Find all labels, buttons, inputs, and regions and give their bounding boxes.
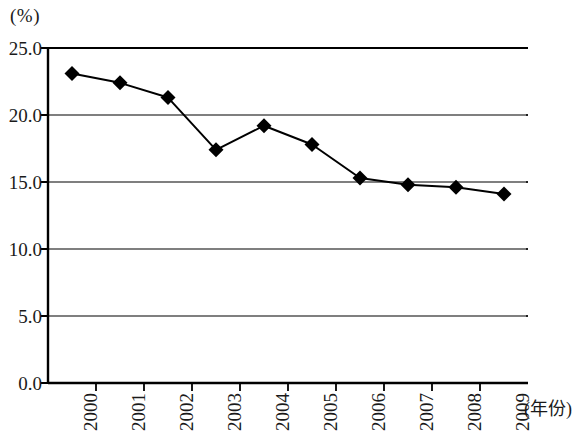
x-axis-tick-label: 2005 — [321, 393, 340, 431]
x-axis-tick-label: 2008 — [465, 393, 484, 431]
x-axis-tick-label: 2000 — [81, 393, 100, 431]
x-axis-tick-label: 2001 — [129, 393, 148, 431]
x-axis-tick-label: 2004 — [273, 393, 292, 431]
x-axis-tick-labels: 2000200120022003200420052006200720082009 — [0, 0, 585, 431]
x-axis-tick-label: 2007 — [417, 393, 436, 431]
x-axis-tick-label: 2006 — [369, 393, 388, 431]
x-axis-tick-label: 2002 — [177, 393, 196, 431]
x-axis-unit-label: (年份) — [524, 400, 572, 418]
x-axis-tick-label: 2003 — [225, 393, 244, 431]
line-chart: (%) 0.05.010.015.020.025.0 2000200120022… — [0, 0, 585, 431]
